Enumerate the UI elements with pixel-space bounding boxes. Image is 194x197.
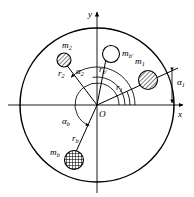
x-axis-label: x [177,109,183,119]
origin-label: O [99,109,106,119]
mass-m2 [57,53,71,67]
alpha2-label: α2 [76,66,84,77]
rb-prime-label: rb′ [99,64,108,75]
y-axis-label: y [87,9,93,19]
alpha1-arc [127,92,130,105]
figure-canvas: y x O m1 r1 α1 m2 r2 α2 mb′ rb′ mb rb αb [0,0,194,197]
rotor-balance-figure: y x O m1 r1 α1 m2 r2 α2 mb′ rb′ mb rb αb [0,0,194,197]
alphab-label: αb [62,116,70,127]
mass-mb [65,151,84,170]
mb-prime-label: mb′ [122,48,134,59]
alpha1-label: α1 [177,77,185,88]
m2-label: m2 [62,40,72,51]
mb-label: mb [50,147,60,158]
r1-label: r1 [116,82,123,93]
mass-m1 [139,71,158,90]
r2-label: r2 [58,68,65,79]
m1-label: m1 [135,56,145,67]
mass-mb-prime [103,46,120,63]
rb-label: rb [72,133,79,144]
